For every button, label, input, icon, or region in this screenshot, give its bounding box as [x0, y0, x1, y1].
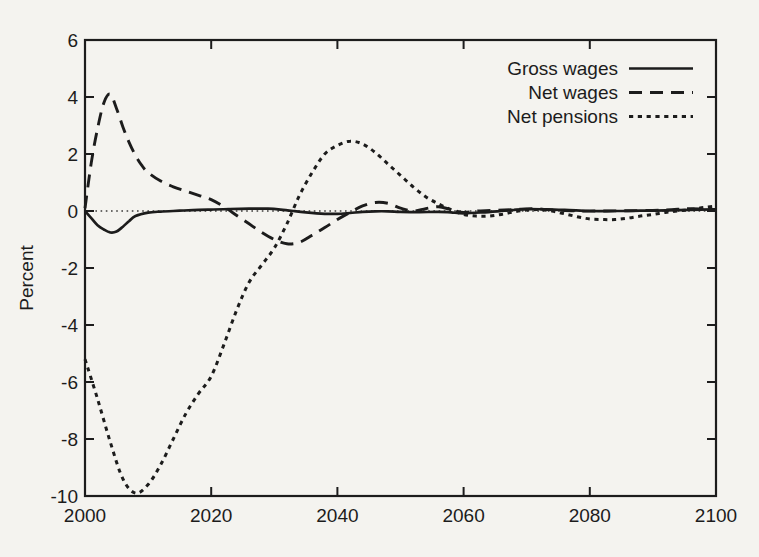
- y-tick-label: 0: [67, 201, 78, 222]
- legend-label-net-pensions: Net pensions: [507, 106, 618, 127]
- axis-ticks-group: [85, 40, 716, 496]
- y-tick-label: 6: [67, 30, 78, 51]
- series-line-net-wages: [85, 94, 716, 244]
- plot-border: [85, 40, 716, 496]
- series-line-net-pensions: [85, 141, 716, 493]
- x-tick-label: 2020: [190, 505, 232, 526]
- x-tick-label: 2060: [442, 505, 484, 526]
- x-tick-label: 2100: [695, 505, 737, 526]
- y-axis-label: Percent: [16, 245, 37, 311]
- y-tick-label: -10: [51, 486, 78, 507]
- x-tick-label: 2000: [64, 505, 106, 526]
- line-chart: 2000202020402060208021006420-2-4-6-8-10 …: [0, 0, 759, 557]
- x-tick-label: 2080: [569, 505, 611, 526]
- figure: 2000202020402060208021006420-2-4-6-8-10 …: [0, 0, 759, 557]
- y-tick-label: 4: [67, 87, 78, 108]
- legend: Gross wages Net wages Net pensions: [507, 58, 693, 127]
- y-tick-label: -6: [61, 372, 78, 393]
- y-tick-label: 2: [67, 144, 78, 165]
- series-group: [85, 94, 716, 493]
- axis-tick-labels-group: 2000202020402060208021006420-2-4-6-8-10: [51, 30, 738, 527]
- legend-label-net-wages: Net wages: [528, 82, 618, 103]
- series-line-gross-wages: [85, 209, 716, 233]
- legend-label-gross-wages: Gross wages: [507, 58, 618, 79]
- y-tick-label: -2: [61, 258, 78, 279]
- legend-item-net-pensions: Net pensions: [507, 106, 693, 127]
- y-tick-label: -8: [61, 429, 78, 450]
- y-tick-label: -4: [61, 315, 78, 336]
- legend-item-gross-wages: Gross wages: [507, 58, 693, 79]
- x-tick-label: 2040: [316, 505, 358, 526]
- legend-item-net-wages: Net wages: [528, 82, 693, 103]
